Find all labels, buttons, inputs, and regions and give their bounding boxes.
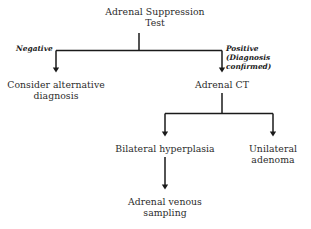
edge-label-positive: Positive (Diagnosis confirmed) bbox=[226, 44, 311, 71]
node-bilateral-hyperplasia: Bilateral hyperplasia bbox=[105, 143, 225, 154]
flowchart-canvas: Adrenal Suppression Test Negative Positi… bbox=[0, 0, 311, 229]
node-consider-alternative-diagnosis: Consider alternative diagnosis bbox=[0, 79, 115, 101]
edge-label-negative: Negative bbox=[16, 44, 60, 53]
node-adrenal-suppression-test: Adrenal Suppression Test bbox=[80, 6, 230, 28]
node-adrenal-venous-sampling: Adrenal venous sampling bbox=[110, 196, 220, 218]
flowchart-connectors bbox=[0, 0, 311, 229]
node-unilateral-adenoma: Unilateral adenoma bbox=[237, 143, 309, 165]
node-adrenal-ct: Adrenal CT bbox=[172, 79, 272, 90]
